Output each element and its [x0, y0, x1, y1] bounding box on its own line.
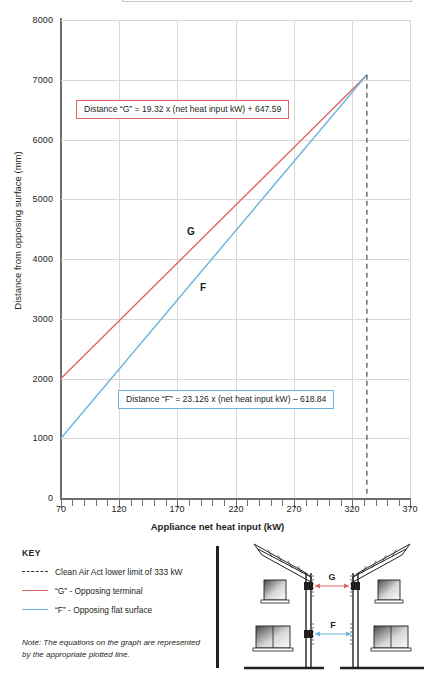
dashed-line-swatch-icon [22, 567, 48, 577]
roof-left-bottom [262, 555, 311, 582]
blue-line-swatch-icon [22, 605, 48, 615]
y-tick-7000: 7000 [13, 75, 53, 85]
x-tick-220: 220 [216, 504, 256, 514]
series-line-g [61, 75, 367, 379]
x-tick-minor-200 [212, 500, 213, 506]
panel-divider [216, 546, 219, 668]
key-item-g: “G” - Opposing terminal [22, 586, 218, 596]
key-item-label: Clean Air Act lower limit of 333 kW [55, 567, 183, 577]
y-tick-0: 0 [13, 493, 53, 503]
key-title: KEY [22, 548, 218, 558]
opposing-buildings-diagram: G F [232, 540, 432, 675]
x-tick-minor-100 [96, 500, 97, 506]
y-axis-title: Distance from opposing surface (mm) [12, 121, 23, 341]
x-tick-minor-190 [201, 500, 202, 506]
x-tick-70: 70 [41, 504, 81, 514]
window-left-upper [261, 580, 289, 603]
roof-right-bottom [353, 555, 402, 582]
series-layer [61, 20, 410, 498]
key-note: Note: The equations on the graph are rep… [22, 637, 207, 660]
roof-right-edge [402, 544, 410, 555]
window-right-upper [375, 580, 403, 603]
y-tick-8000: 8000 [13, 15, 53, 25]
key-item-clean-air-act: Clean Air Act lower limit of 333 kW [22, 567, 218, 577]
x-tick-120: 120 [99, 504, 139, 514]
roof-left-mid [258, 549, 311, 577]
x-tick-minor-250 [271, 500, 272, 506]
x-tick-minor-350 [387, 500, 388, 506]
series-tag-g: G [187, 226, 195, 237]
x-tick-minor-90 [84, 500, 85, 506]
x-tick-minor-290 [317, 500, 318, 506]
dimension-label-f: F [330, 620, 336, 630]
key-item-label: “G” - Opposing terminal [55, 586, 143, 596]
x-axis-title: Appliance net heat input (kW) [0, 521, 435, 532]
x-tick-minor-150 [154, 500, 155, 506]
window-left-lower [253, 626, 293, 651]
roof-left-edge [254, 544, 262, 555]
x-tick-370: 370 [390, 504, 430, 514]
series-tag-f: F [200, 282, 206, 293]
window-right-lower [371, 626, 411, 651]
series-line-f [61, 75, 367, 438]
key-item-label: “F” - Opposing flat surface [55, 605, 152, 615]
chart-panel: G F 8000 7000 6000 5000 4000 3000 2000 1… [0, 0, 435, 535]
x-tick-minor-140 [142, 500, 143, 506]
red-line-swatch-icon [22, 586, 48, 596]
x-tick-270: 270 [274, 504, 314, 514]
dimension-arrow-f: F [315, 620, 351, 636]
terminal-left-upper [304, 582, 313, 590]
roof-right-mid [353, 549, 406, 577]
dimension-arrow-g: G [315, 572, 349, 588]
terminal-right-upper [351, 582, 360, 590]
bottom-panel: KEY Clean Air Act lower limit of 333 kW … [0, 538, 435, 677]
equation-callout-g: Distance “G” = 19.32 x (net heat input k… [76, 100, 289, 119]
y-tick-2000: 2000 [13, 374, 53, 384]
x-tick-minor-240 [259, 500, 260, 506]
x-tick-minor-300 [329, 500, 330, 506]
equation-callout-f: Distance “F” = 23.126 x (net heat input … [118, 390, 334, 409]
key-legend: KEY Clean Air Act lower limit of 333 kW … [22, 548, 218, 660]
x-tick-320: 320 [332, 504, 372, 514]
dimension-label-g: G [328, 572, 335, 582]
gridline-x-370 [410, 20, 411, 498]
x-tick-170: 170 [157, 504, 197, 514]
y-tick-1000: 1000 [13, 433, 53, 443]
key-item-f: “F” - Opposing flat surface [22, 605, 218, 615]
x-tick-minor-340 [376, 500, 377, 506]
plot-area: G F [61, 20, 410, 498]
terminal-left-lower [304, 630, 313, 638]
